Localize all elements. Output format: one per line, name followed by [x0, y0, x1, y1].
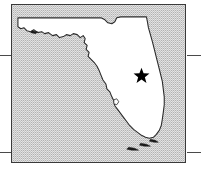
map-alt-text: Outline map of Florida shaded white agai… — [0, 0, 1, 1]
florida-keys-lower — [127, 147, 139, 150]
florida-keys-middle — [140, 143, 151, 146]
map-graphic — [12, 5, 185, 162]
locator-map-figure: Outline map of Florida shaded white agai… — [0, 0, 201, 176]
florida-keys-upper — [149, 139, 158, 142]
map-frame — [11, 4, 186, 163]
graticule-tick-south-right — [187, 152, 201, 153]
graticule-tick-north-right — [187, 55, 201, 56]
